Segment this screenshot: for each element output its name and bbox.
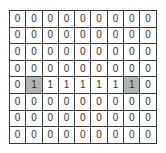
grid-cell: 0 xyxy=(107,127,123,144)
grid-row: 0 0 0 0 0 0 0 0 0 xyxy=(10,127,157,144)
grid-cell: 0 xyxy=(75,27,91,44)
grid-cell: 0 xyxy=(42,110,58,127)
grid-cell: 0 xyxy=(58,27,74,44)
grid-cell: 0 xyxy=(58,44,74,61)
grid-cell: 0 xyxy=(107,60,123,77)
grid-cell: 0 xyxy=(107,27,123,44)
grid-row: 0 0 0 0 0 0 0 0 0 xyxy=(10,93,157,110)
grid-cell: 0 xyxy=(58,60,74,77)
grid-cell: 0 xyxy=(91,27,107,44)
grid-row: 0 0 0 0 0 0 0 0 0 xyxy=(10,60,157,77)
grid-cell: 0 xyxy=(124,127,140,144)
grid-cell: 0 xyxy=(10,77,26,94)
grid-cell: 0 xyxy=(26,44,42,61)
grid-cell: 0 xyxy=(124,11,140,28)
grid-cell: 0 xyxy=(140,60,156,77)
grid-cell: 0 xyxy=(26,11,42,28)
grid-cell: 0 xyxy=(26,60,42,77)
grid-cell: 1 xyxy=(42,77,58,94)
grid-cell: 0 xyxy=(42,44,58,61)
grid-cell: 0 xyxy=(58,11,74,28)
grid-cell: 0 xyxy=(75,44,91,61)
grid-cell: 0 xyxy=(124,60,140,77)
grid-body: 0 0 0 0 0 0 0 0 0 0 0 0 0 0 0 0 0 0 0 0 … xyxy=(10,11,157,144)
binary-grid: 0 0 0 0 0 0 0 0 0 0 0 0 0 0 0 0 0 0 0 0 … xyxy=(9,10,157,144)
grid-cell: 0 xyxy=(140,127,156,144)
grid-cell: 0 xyxy=(107,93,123,110)
grid-cell: 1 xyxy=(58,77,74,94)
grid-cell: 0 xyxy=(124,27,140,44)
grid-cell: 1 xyxy=(91,77,107,94)
grid-cell: 0 xyxy=(26,127,42,144)
grid-cell: 0 xyxy=(140,27,156,44)
grid-cell: 0 xyxy=(10,11,26,28)
grid-row: 0 1 1 1 1 1 1 1 0 xyxy=(10,77,157,94)
grid-cell: 0 xyxy=(140,44,156,61)
grid-cell: 0 xyxy=(58,93,74,110)
grid-cell: 1 xyxy=(75,77,91,94)
grid-cell: 0 xyxy=(42,60,58,77)
grid-cell: 0 xyxy=(10,110,26,127)
grid-cell: 0 xyxy=(107,44,123,61)
grid-row: 0 0 0 0 0 0 0 0 0 xyxy=(10,44,157,61)
grid-cell: 0 xyxy=(75,127,91,144)
grid-cell: 0 xyxy=(91,93,107,110)
grid-cell: 0 xyxy=(140,11,156,28)
grid-cell: 0 xyxy=(26,27,42,44)
grid-cell: 0 xyxy=(75,11,91,28)
grid-cell: 0 xyxy=(75,110,91,127)
grid-cell: 1 xyxy=(107,77,123,94)
grid-cell: 0 xyxy=(58,110,74,127)
grid-cell: 0 xyxy=(140,110,156,127)
grid-cell: 0 xyxy=(42,127,58,144)
grid-cell: 0 xyxy=(91,127,107,144)
grid-cell-highlighted: 1 xyxy=(26,77,42,94)
grid-cell: 0 xyxy=(10,127,26,144)
grid-row: 0 0 0 0 0 0 0 0 0 xyxy=(10,27,157,44)
grid-cell: 0 xyxy=(75,60,91,77)
grid-row: 0 0 0 0 0 0 0 0 0 xyxy=(10,110,157,127)
grid-cell: 0 xyxy=(26,93,42,110)
grid-cell: 0 xyxy=(124,93,140,110)
grid-cell: 0 xyxy=(107,110,123,127)
grid-cell: 0 xyxy=(75,93,91,110)
grid-cell: 0 xyxy=(91,44,107,61)
grid-cell: 0 xyxy=(26,110,42,127)
grid-cell: 0 xyxy=(107,11,123,28)
grid-cell: 0 xyxy=(140,77,156,94)
grid-cell: 0 xyxy=(10,44,26,61)
grid-cell: 0 xyxy=(91,110,107,127)
grid-cell: 0 xyxy=(140,93,156,110)
grid-row: 0 0 0 0 0 0 0 0 0 xyxy=(10,11,157,28)
grid-cell: 0 xyxy=(91,11,107,28)
grid-cell: 0 xyxy=(124,44,140,61)
grid-cell: 0 xyxy=(10,93,26,110)
grid-cell: 0 xyxy=(10,60,26,77)
grid-cell-highlighted: 1 xyxy=(124,77,140,94)
grid-cell: 0 xyxy=(42,27,58,44)
grid-cell: 0 xyxy=(10,27,26,44)
grid-cell: 0 xyxy=(42,11,58,28)
grid-cell: 0 xyxy=(42,93,58,110)
grid-cell: 0 xyxy=(91,60,107,77)
grid-cell: 0 xyxy=(58,127,74,144)
grid-cell: 0 xyxy=(124,110,140,127)
